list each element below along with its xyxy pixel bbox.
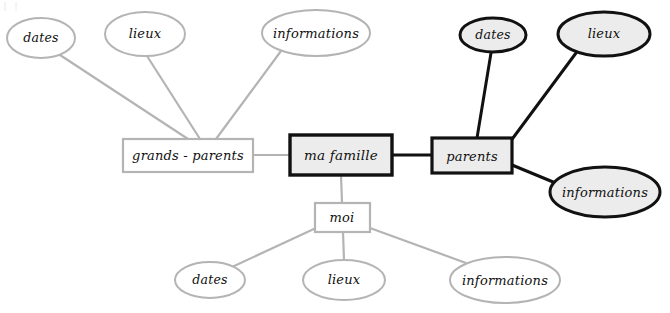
ma-famille-label: ma famille (304, 147, 378, 163)
p-dates-label: dates (475, 27, 510, 42)
grands-parents-label: grands - parents (132, 148, 244, 163)
edge-moi-dates (232, 228, 316, 267)
parents-label: parents (446, 149, 498, 164)
node-gp-informations[interactable]: informations (262, 10, 370, 56)
node-parents[interactable]: parents (432, 138, 512, 173)
edge-moi-lieux (343, 232, 344, 260)
edge-grandsparents-lieux (147, 56, 200, 139)
node-p-dates[interactable]: dates (460, 18, 526, 52)
family-mind-map: dates lieux informations grands - parent… (0, 0, 670, 313)
edge-parents-dates (477, 53, 491, 138)
node-p-informations[interactable]: informations (550, 167, 660, 217)
node-grands-parents[interactable]: grands - parents (123, 139, 253, 172)
edge-parents-informations (512, 165, 558, 184)
node-m-dates[interactable]: dates (175, 262, 245, 298)
node-moi[interactable]: moi (315, 203, 370, 232)
diagram-canvas: dates lieux informations grands - parent… (0, 0, 670, 313)
node-gp-dates[interactable]: dates (7, 18, 75, 58)
node-ma-famille[interactable]: ma famille (290, 135, 392, 175)
moi-label: moi (330, 210, 355, 225)
node-m-informations[interactable]: informations (450, 257, 560, 303)
edge-parents-lieux (510, 53, 576, 142)
m-informations-label: informations (462, 273, 548, 288)
gp-lieux-label: lieux (129, 26, 162, 41)
edge-moi-informations (370, 228, 466, 263)
p-lieux-label: lieux (588, 26, 621, 41)
p-informations-label: informations (562, 185, 648, 200)
edge-grandsparents-dates (60, 55, 188, 139)
m-lieux-label: lieux (328, 272, 361, 287)
edge-mafamille-moi (341, 175, 342, 203)
gp-dates-label: dates (23, 30, 58, 45)
m-dates-label: dates (192, 272, 227, 287)
gp-informations-label: informations (273, 26, 359, 41)
node-p-lieux[interactable]: lieux (558, 12, 650, 56)
node-gp-lieux[interactable]: lieux (105, 12, 185, 56)
node-m-lieux[interactable]: lieux (303, 260, 385, 300)
edge-grandsparents-informations (216, 51, 281, 139)
